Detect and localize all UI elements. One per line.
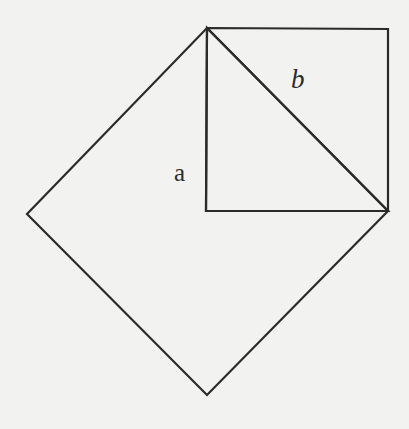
- diagram-background: [0, 0, 409, 429]
- diagram-canvas: [0, 0, 409, 429]
- label-leg-a: a: [174, 160, 185, 185]
- label-hypotenuse-b: b: [291, 66, 305, 93]
- geometry-figure: a b: [0, 0, 409, 429]
